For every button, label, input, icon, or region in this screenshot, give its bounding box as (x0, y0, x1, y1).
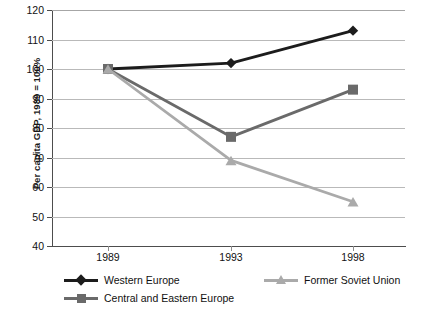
y-tick-mark-60 (47, 187, 52, 188)
legend-label: Central and Eastern Europe (104, 292, 234, 304)
y-tick-label-40: 40 (4, 241, 44, 251)
diamond-marker-icon (75, 274, 86, 285)
y-tick-label-120: 120 (4, 5, 44, 15)
gridline-50 (52, 217, 405, 218)
y-tick-label-110: 110 (4, 35, 44, 45)
y-tick-mark-110 (47, 40, 52, 41)
legend-label: Western Europe (104, 274, 180, 286)
gridline-90 (52, 99, 405, 100)
gridline-100 (52, 69, 405, 70)
y-tick-mark-40 (47, 246, 52, 247)
gridline-120 (52, 10, 405, 11)
legend-label: Former Soviet Union (304, 274, 400, 286)
y-tick-mark-90 (47, 99, 52, 100)
x-tick-label-1998: 1998 (323, 251, 383, 263)
square-marker-icon (77, 294, 86, 303)
y-tick-label-80: 80 (4, 123, 44, 133)
x-tick-label-1993: 1993 (201, 251, 261, 263)
legend-swatch-square-icon (64, 291, 98, 305)
legend-entry-former-soviet-union[interactable]: Former Soviet Union (264, 272, 400, 288)
y-tick-label-50: 50 (4, 212, 44, 222)
y-tick-label-70: 70 (4, 153, 44, 163)
legend-entry-western-europe[interactable]: Western Europe (64, 272, 180, 288)
line-chart: Per capita GDP, 1989 = 100% 120110100908… (0, 0, 423, 313)
y-tick-mark-70 (47, 158, 52, 159)
gridline-60 (52, 187, 405, 188)
triangle-marker-icon (276, 275, 286, 284)
gridline-70 (52, 158, 405, 159)
legend-swatch-diamond-icon (64, 273, 98, 287)
y-tick-label-90: 90 (4, 94, 44, 104)
y-tick-mark-80 (47, 128, 52, 129)
y-tick-label-100: 100 (4, 64, 44, 74)
legend-swatch-triangle-icon (264, 273, 298, 287)
gridline-110 (52, 40, 405, 41)
plot-area (52, 10, 405, 246)
gridline-80 (52, 128, 405, 129)
y-tick-mark-100 (47, 69, 52, 70)
x-tick-label-1989: 1989 (78, 251, 138, 263)
y-tick-label-60: 60 (4, 182, 44, 192)
y-tick-mark-120 (47, 10, 52, 11)
y-tick-mark-50 (47, 217, 52, 218)
legend-entry-central-and-eastern-europe[interactable]: Central and Eastern Europe (64, 290, 234, 306)
chart-legend: Western EuropeCentral and Eastern Europe… (52, 272, 412, 312)
